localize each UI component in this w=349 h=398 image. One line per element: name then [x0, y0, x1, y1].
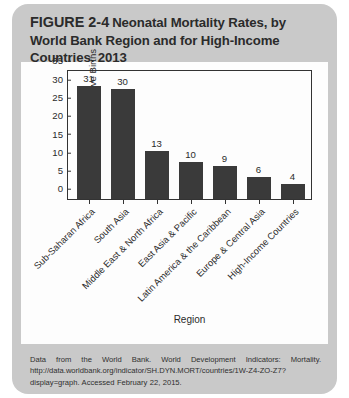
bar-value-sub-saharan-africa: 31 — [83, 74, 94, 84]
figure-title: FIGURE 2-4Neonatal Mortality Rates, by W… — [30, 14, 323, 67]
figure-header: FIGURE 2-4Neonatal Mortality Rates, by W… — [12, 4, 337, 62]
bar-latin-america-caribbean[interactable] — [213, 166, 237, 199]
bar-high-income-countries[interactable] — [281, 184, 305, 199]
bar-value-latin-america-caribbean: 9 — [222, 154, 227, 164]
x-tick-south-asia — [123, 199, 124, 204]
y-tick-25: 25 — [52, 93, 68, 103]
figure-source-note: Data from the World Bank. World Developm… — [12, 344, 337, 394]
bar-slot-east-asia-pacific: 10 East Asia & Pacific — [173, 71, 208, 199]
figure-card: FIGURE 2-4Neonatal Mortality Rates, by W… — [0, 0, 349, 398]
bar-slot-europe-central-asia: 6 Europe & Central Asia — [241, 71, 276, 199]
x-label-east-asia-pacific: East Asia & Pacific — [135, 206, 198, 269]
x-axis-title: Region — [67, 314, 312, 325]
y-tick-20: 20 — [52, 111, 68, 121]
bar-europe-central-asia[interactable] — [247, 177, 271, 199]
x-tick-europe-central-asia — [259, 199, 260, 204]
bar-slot-middle-east-north-africa: 13 Middle East & North Africa — [139, 71, 174, 199]
y-tick-35: 35 — [52, 57, 68, 67]
bar-value-high-income-countries: 4 — [290, 172, 295, 182]
bar-value-middle-east-north-africa: 13 — [151, 139, 162, 149]
y-tick-10: 10 — [52, 148, 68, 158]
y-tick-5: 5 — [58, 166, 68, 176]
bar-value-east-asia-pacific: 10 — [185, 150, 196, 160]
bar-value-south-asia: 30 — [117, 77, 128, 87]
y-tick-0: 0 — [58, 185, 68, 195]
y-tick-30: 30 — [52, 75, 68, 85]
bar-south-asia[interactable] — [111, 89, 135, 199]
bar-slot-high-income-countries: 4 High-Income Countries — [275, 71, 310, 199]
bar-slot-south-asia: 30 South Asia — [105, 71, 140, 199]
x-tick-latin-america-caribbean — [225, 199, 226, 204]
bars-layer: 31 Sub-Saharan Africa 30 South Asia 13 — [68, 71, 311, 199]
chart-panel: Deaths per 1,000 Live Births 0 5 10 15 2… — [21, 62, 328, 344]
x-tick-east-asia-pacific — [191, 199, 192, 204]
y-tick-15: 15 — [52, 130, 68, 140]
x-tick-middle-east-north-africa — [157, 199, 158, 204]
x-label-sub-saharan-africa: Sub-Saharan Africa — [31, 206, 96, 271]
plot-frame: Deaths per 1,000 Live Births 0 5 10 15 2… — [67, 70, 312, 200]
bar-middle-east-north-africa[interactable] — [145, 151, 169, 199]
bar-chart: Deaths per 1,000 Live Births 0 5 10 15 2… — [21, 62, 328, 344]
bar-slot-sub-saharan-africa: 31 Sub-Saharan Africa — [71, 71, 106, 199]
figure-number: FIGURE 2-4 — [30, 14, 109, 30]
x-tick-high-income-countries — [293, 199, 294, 204]
bar-east-asia-pacific[interactable] — [179, 162, 203, 199]
bar-value-europe-central-asia: 6 — [256, 165, 261, 175]
x-tick-sub-saharan-africa — [89, 199, 90, 204]
bar-sub-saharan-africa[interactable] — [77, 86, 101, 199]
bar-slot-latin-america-caribbean: 9 Latin America & the Caribbean — [207, 71, 242, 199]
